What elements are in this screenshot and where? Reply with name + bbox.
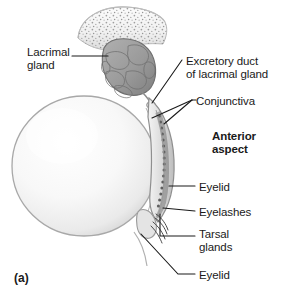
leader-excretory-duct <box>152 60 182 103</box>
leader-conjunctiva-b <box>164 100 192 124</box>
leader-eyelid-lower <box>141 234 195 274</box>
upper-eyelid-structure <box>148 98 174 222</box>
lacrimal-gland-structure <box>102 39 156 98</box>
leader-eyelashes <box>163 208 195 211</box>
label-tarsal-glands: Tarsal glands <box>199 228 232 253</box>
figure-marker: (a) <box>14 271 29 285</box>
label-anterior-aspect: Anterior aspect <box>212 130 256 155</box>
eyeball-structure <box>12 96 156 236</box>
label-excretory-duct: Excretory duct of lacrimal gland <box>186 55 268 80</box>
leader-tarsal-glands <box>160 214 195 236</box>
label-lacrimal-gland: Lacrimal gland <box>27 46 70 71</box>
label-eyelid-upper: Eyelid <box>199 181 230 194</box>
label-eyelashes: Eyelashes <box>199 206 251 219</box>
label-eyelid-lower: Eyelid <box>199 269 230 282</box>
label-conjunctiva: Conjunctiva <box>196 95 255 108</box>
